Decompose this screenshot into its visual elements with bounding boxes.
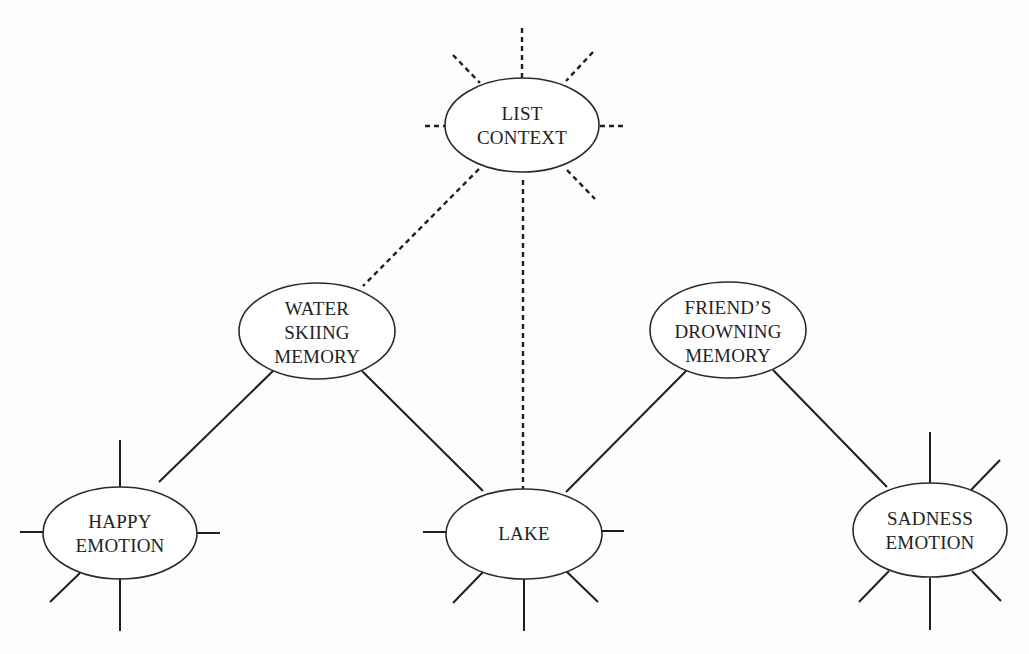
edge-water-skiing-to-lake — [362, 371, 483, 491]
node-ellipse — [853, 483, 1007, 577]
node-label-line-2: CONTEXT — [477, 127, 567, 148]
node-ellipse — [445, 78, 599, 172]
node-label-line-1: LIST — [502, 103, 543, 124]
edge-friends-drowning-to-lake — [566, 371, 686, 492]
edge-friends-drowning-to-sadness — [773, 370, 887, 487]
node-friends-drowning-memory: FRIEND’S DROWNING MEMORY — [650, 282, 806, 378]
node-label-line-3: MEMORY — [274, 346, 360, 367]
memory-network-diagram: LIST CONTEXT WATER SKIING MEMORY FRIEND’… — [0, 0, 1029, 654]
node-label-line-3: MEMORY — [685, 345, 771, 366]
node-list-context: LIST CONTEXT — [445, 78, 599, 172]
node-label-line-2: DROWNING — [674, 321, 781, 342]
node-label-line-1: LAKE — [498, 523, 549, 544]
node-label-line-1: SADNESS — [887, 508, 973, 529]
node-label-line-2: SKIING — [284, 322, 350, 343]
node-label-line-1: WATER — [285, 298, 349, 319]
node-label-line-2: EMOTION — [886, 532, 975, 553]
node-label-line-2: EMOTION — [76, 535, 165, 556]
node-water-skiing-memory: WATER SKIING MEMORY — [239, 283, 395, 379]
edge-water-skiing-to-happy — [159, 371, 273, 482]
node-sadness-emotion: SADNESS EMOTION — [853, 483, 1007, 577]
spoke-bottom-right — [567, 170, 595, 199]
spoke-top-right — [566, 52, 593, 81]
spoke-top-right — [971, 460, 1000, 490]
spoke-bottom-left — [859, 571, 889, 602]
node-happy-emotion: HAPPY EMOTION — [43, 487, 197, 579]
edge-list-context-to-water-skiing — [363, 169, 479, 286]
node-ellipse — [43, 487, 197, 579]
node-label-line-1: FRIEND’S — [684, 297, 771, 318]
spoke-bottom-left — [50, 573, 80, 602]
spoke-top-left — [453, 55, 480, 83]
spoke-bottom-right — [566, 571, 598, 602]
node-label-line-1: HAPPY — [88, 511, 151, 532]
spoke-bottom-left — [453, 572, 483, 603]
node-lake: LAKE — [446, 489, 602, 579]
spoke-bottom-right — [972, 571, 1001, 601]
